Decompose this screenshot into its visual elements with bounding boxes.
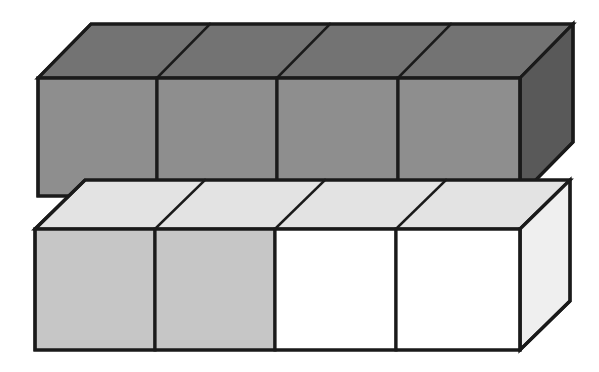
lower-slab-cube-2-front-face (155, 229, 275, 350)
lower-slab-cube-3-front-face (275, 229, 396, 350)
upper-slab-cube-3-front-face (277, 78, 398, 196)
upper-slab-top-face (38, 24, 573, 78)
lower-slab-cube-1-front-face (35, 229, 155, 350)
lower-slab (35, 180, 570, 350)
upper-slab-cube-1-front-face (38, 78, 157, 196)
upper-slab-cube-4-front-face (398, 78, 520, 196)
stacked-cubes-diagram (0, 0, 599, 372)
lower-slab-top-face (35, 180, 570, 229)
upper-slab-cube-2-front-face (157, 78, 277, 196)
figure-canvas (0, 0, 599, 372)
upper-slab (38, 24, 573, 196)
lower-slab-cube-4-front-face (396, 229, 520, 350)
